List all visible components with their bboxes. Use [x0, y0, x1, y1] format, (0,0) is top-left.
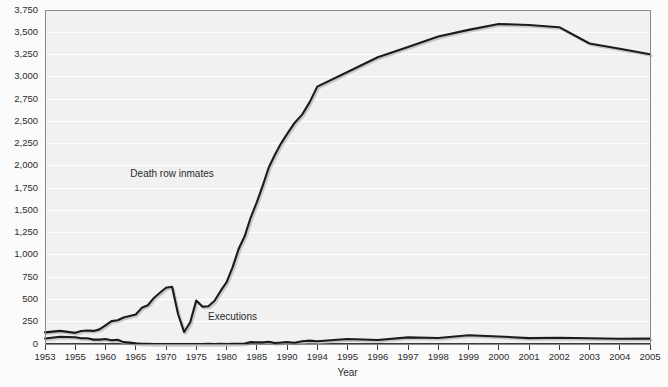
series-annotation-1: Death row inmates: [130, 168, 213, 179]
y-axis-tick-label: 3,000: [14, 70, 38, 81]
y-axis-tick-label: 3,750: [14, 4, 38, 15]
x-axis-tick-labels: 1953195519601965197019751980198519901994…: [34, 351, 660, 362]
x-axis-title: Year: [337, 367, 358, 378]
x-axis-tick-label: 1990: [276, 351, 297, 362]
y-axis-tick-label: 3,250: [14, 48, 38, 59]
x-axis-tick-label: 1995: [337, 351, 358, 362]
x-axis-tick-label: 1980: [216, 351, 237, 362]
y-axis-tick-label: 0: [33, 338, 38, 349]
y-axis-tick-label: 2,250: [14, 137, 38, 148]
y-axis-tick-labels: 02505007501,0001,2501,5001,7502,0002,250…: [14, 4, 38, 349]
y-axis-tick-label: 2,000: [14, 159, 38, 170]
x-axis-tick-label: 1975: [186, 351, 207, 362]
x-axis-tick-label: 2005: [639, 351, 660, 362]
series-annotation-2: Executions: [208, 311, 257, 322]
x-axis-tick-label: 1953: [34, 351, 55, 362]
y-axis-tick-label: 3,500: [14, 26, 38, 37]
x-axis-tick-label: 1998: [428, 351, 449, 362]
y-axis-tick-label: 1,500: [14, 204, 38, 215]
x-axis-tick-label: 1997: [397, 351, 418, 362]
x-axis-tick-label: 2003: [579, 351, 600, 362]
x-axis-tick-label: 2002: [549, 351, 570, 362]
x-axis-tick-label: 1994: [307, 351, 328, 362]
line-chart: 02505007501,0001,2501,5001,7502,0002,250…: [0, 0, 668, 387]
y-axis-tick-label: 750: [22, 271, 38, 282]
y-axis-tick-label: 2,750: [14, 93, 38, 104]
y-axis-tick-label: 1,000: [14, 248, 38, 259]
chart-screenshot: 02505007501,0001,2501,5001,7502,0002,250…: [0, 0, 668, 387]
chart-svg: 02505007501,0001,2501,5001,7502,0002,250…: [0, 0, 668, 387]
x-axis-tick-label: 1960: [95, 351, 116, 362]
x-axis-tick-label: 1985: [246, 351, 267, 362]
x-axis-tick-label: 2000: [488, 351, 509, 362]
x-axis-tick-label: 1955: [65, 351, 86, 362]
x-axis-tick-label: 1970: [155, 351, 176, 362]
x-axis-tick-label: 2004: [609, 351, 630, 362]
x-axis-tick-label: 1999: [458, 351, 479, 362]
y-axis-tick-label: 500: [22, 293, 38, 304]
y-axis-tick-label: 1,750: [14, 182, 38, 193]
x-axis-tick-label: 2001: [518, 351, 539, 362]
x-axis-tick-label: 1965: [125, 351, 146, 362]
y-axis-tick-label: 1,250: [14, 226, 38, 237]
y-axis-tick-label: 250: [22, 315, 38, 326]
y-axis-tick-label: 2,500: [14, 115, 38, 126]
x-axis-tick-label: 1996: [367, 351, 388, 362]
